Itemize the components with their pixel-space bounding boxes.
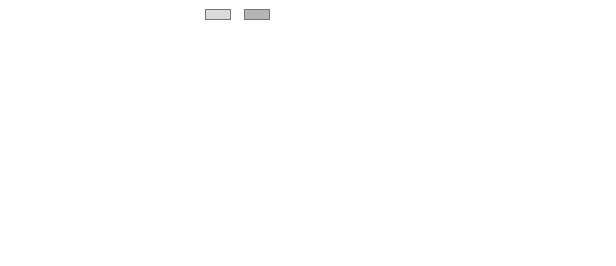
legend-swatch-she-says [244,9,270,20]
legend-swatch-he-says [205,9,231,20]
legend-item-he-says [205,9,236,20]
legend [205,6,283,22]
legend-item-she-says [244,9,275,20]
